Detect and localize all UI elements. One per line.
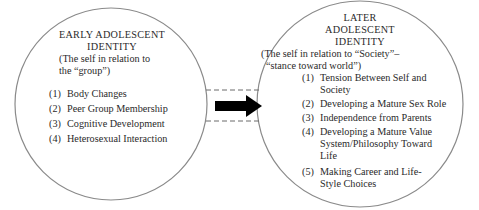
right-arrow-icon — [215, 95, 262, 117]
early-title-line2: IDENTITY — [58, 41, 166, 53]
early-title-line1: EARLY ADOLESCENT — [58, 29, 166, 41]
later-subtitle-line2: “stance toward world”) — [266, 60, 361, 72]
later-title-line2: ADOLESCENT — [300, 24, 420, 36]
later-subtitle-line1: (The self in relation to “Society”– — [261, 48, 399, 60]
early-subtitle-line1: (The self in relation to — [59, 53, 150, 65]
early-subtitle-line2: the “group”) — [59, 65, 110, 77]
later-title-line1: LATER — [300, 12, 420, 24]
later-title-line3: IDENTITY — [300, 36, 420, 48]
